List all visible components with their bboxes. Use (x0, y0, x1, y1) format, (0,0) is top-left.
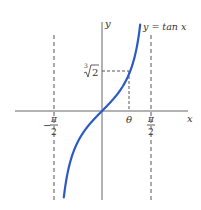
svg-text:2: 2 (148, 127, 154, 137)
cuberoot-2-label: 3 2 (84, 62, 99, 78)
svg-text:2: 2 (51, 127, 57, 137)
svg-text:π: π (147, 114, 155, 124)
theta-label: θ (126, 114, 132, 125)
y-axis-label: y (104, 18, 111, 29)
svg-text:π: π (50, 114, 58, 124)
pi-over-2-label: π 2 (147, 114, 155, 137)
curve-label: y = tan x (142, 21, 187, 32)
neg-pi-over-2-label: − π 2 (43, 114, 58, 137)
svg-text:2: 2 (92, 67, 98, 78)
x-axis-label: x (187, 113, 193, 124)
svg-text:3: 3 (84, 62, 88, 69)
tan-graph: y x y = tan x 3 2 θ − π 2 π 2 (0, 0, 201, 210)
